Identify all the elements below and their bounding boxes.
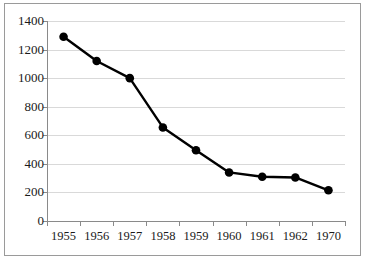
series-line (64, 37, 329, 191)
data-point-marker (125, 74, 134, 83)
data-point-marker (225, 168, 234, 177)
line-chart-figure: 0200400600800100012001400 19551956195719… (0, 0, 366, 262)
data-point-marker (258, 172, 267, 181)
data-point-marker (159, 123, 168, 132)
data-series-layer (0, 0, 366, 262)
data-point-marker (192, 146, 201, 155)
data-point-marker (59, 32, 68, 41)
data-point-marker (324, 186, 333, 195)
data-point-marker (291, 173, 300, 182)
series-markers (59, 32, 332, 194)
data-point-marker (92, 57, 101, 66)
